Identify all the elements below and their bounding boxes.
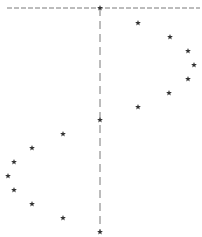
star-marker-icon [11, 187, 17, 192]
star-marker-icon [60, 131, 66, 136]
scatter-plot [0, 0, 202, 237]
star-marker-icon [29, 201, 35, 206]
data-points [5, 5, 197, 234]
reference-lines [7, 8, 200, 232]
star-marker-icon [11, 159, 17, 164]
star-marker-icon [135, 104, 141, 109]
star-marker-icon [167, 34, 173, 39]
star-marker-icon [5, 173, 11, 178]
star-marker-icon [97, 229, 103, 234]
star-marker-icon [97, 117, 103, 122]
star-marker-icon [135, 20, 141, 25]
star-marker-icon [29, 145, 35, 150]
star-marker-icon [166, 90, 172, 95]
star-marker-icon [185, 48, 191, 53]
star-marker-icon [185, 76, 191, 81]
star-marker-icon [191, 62, 197, 67]
star-marker-icon [60, 215, 66, 220]
